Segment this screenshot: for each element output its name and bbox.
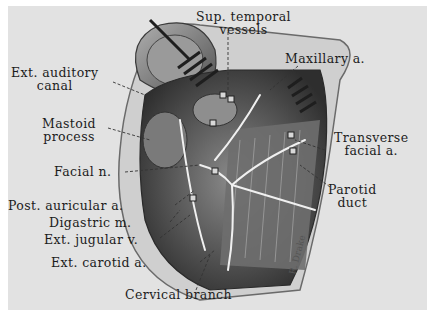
label-line: duct <box>328 196 377 209</box>
label-mastoid-process: Mastoid process <box>42 117 96 143</box>
label-cervical-branch: Cervical branch <box>125 288 232 301</box>
label-ext-carotid-artery: Ext. carotid a. <box>51 256 147 269</box>
label-parotid-duct: Parotid duct <box>328 183 377 209</box>
label-line: facial a. <box>334 144 408 157</box>
label-transverse-facial-artery: Transverse facial a. <box>334 131 408 157</box>
label-line: process <box>42 130 96 143</box>
label-ext-jugular-vein: Ext. jugular v. <box>44 233 138 246</box>
label-facial-nerve: Facial n. <box>54 165 111 178</box>
label-post-auricular-artery: Post. auricular a. <box>8 199 123 212</box>
label-sup-temporal-vessels: Sup. temporal vessels <box>196 10 291 36</box>
label-maxillary-artery: Maxillary a. <box>285 52 365 65</box>
label-digastric-muscle: Digastric m. <box>49 216 132 229</box>
label-line: vessels <box>196 23 291 36</box>
label-ext-auditory-canal: Ext. auditory canal <box>11 66 98 92</box>
label-line: canal <box>11 79 98 92</box>
